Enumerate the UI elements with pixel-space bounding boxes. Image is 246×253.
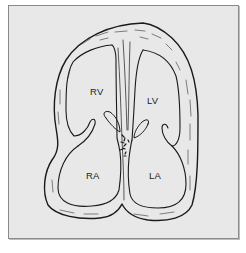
septum-line [128,42,130,130]
ra-cavity-outline [58,45,121,206]
lv-septum-wall [132,50,143,140]
label-ra: RA [86,170,100,181]
label-lv: LV [147,95,158,106]
mitral-leaflet [134,120,149,138]
heart-illustration [0,0,246,253]
septum-line [123,40,127,130]
label-rv: RV [90,86,103,97]
rv-cavity-outline [66,45,112,146]
crux-speckle [120,135,129,156]
tricuspid-leaflet [104,111,120,132]
label-la: LA [149,170,161,181]
